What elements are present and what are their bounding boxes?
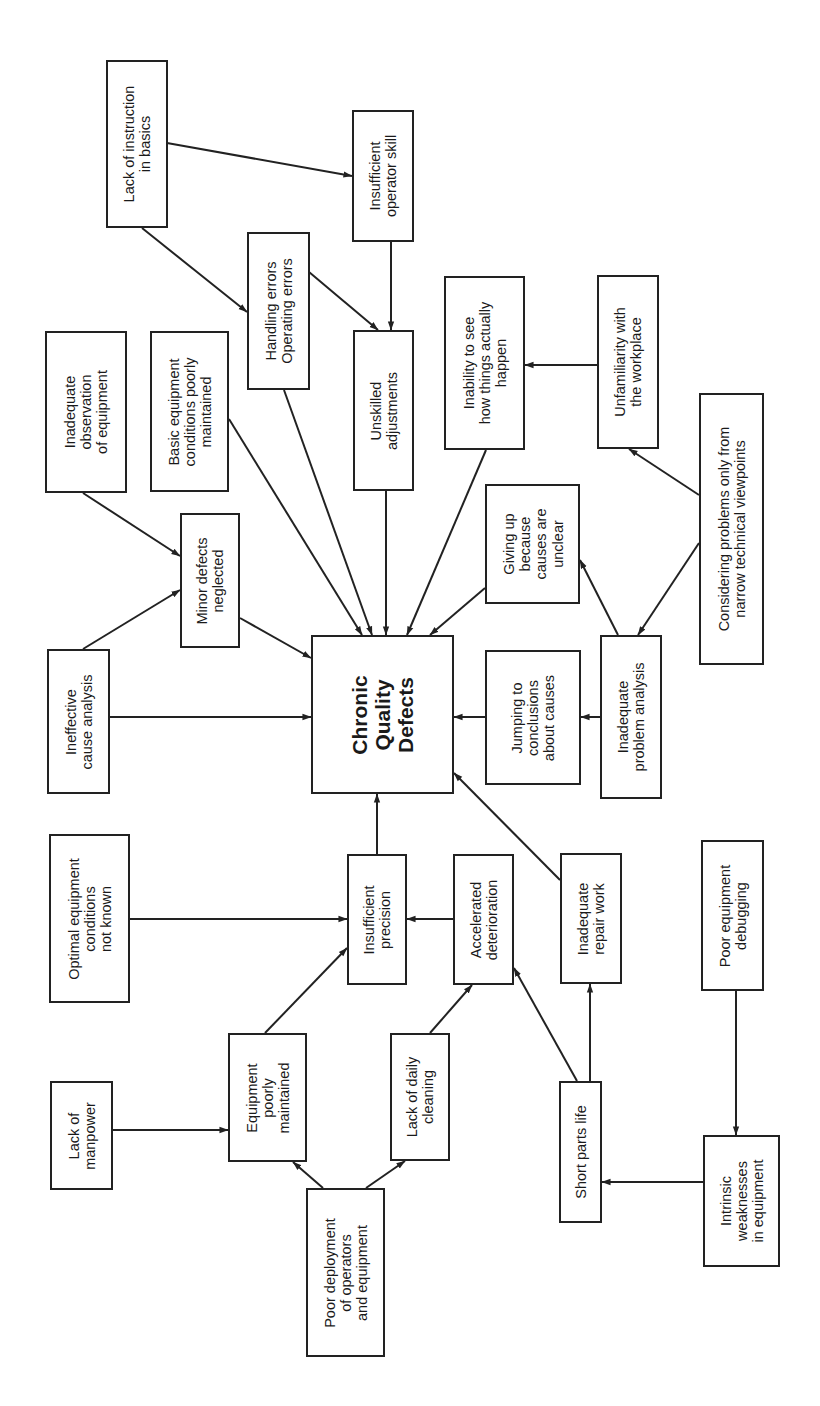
node-label: Basic equipment conditions poorly mainta… bbox=[165, 357, 214, 466]
node-insuff-precision: Insufficient precision bbox=[347, 854, 407, 985]
node-label: Unfamiliarity with the workplace bbox=[612, 307, 644, 417]
node-considering: Considering problems only from narrow te… bbox=[699, 393, 764, 665]
node-giving-up: Giving up because causes are unclear bbox=[485, 484, 580, 604]
central-effect-box: Chronic Quality Defects bbox=[311, 635, 454, 794]
node-poor-deployment: Poor deployment of operators and equipme… bbox=[306, 1188, 385, 1357]
node-label: Short parts life bbox=[572, 1105, 588, 1199]
node-inadequate-problem: Inadequate problem analysis bbox=[600, 635, 662, 799]
node-label: Optimal equipment conditions not known bbox=[65, 858, 114, 980]
node-handling: Handling errors Operating errors bbox=[247, 232, 310, 390]
node-label: Accelerated deterioration bbox=[467, 879, 499, 960]
node-label: Unskilled adjustments bbox=[367, 371, 399, 449]
node-label: Poor deployment of operators and equipme… bbox=[321, 1218, 370, 1328]
node-lack-manpower: Lack of manpower bbox=[50, 1081, 113, 1190]
node-label: Jumping to conclusions about causes bbox=[509, 674, 558, 760]
node-lack-instruction: Lack of instruction in basics bbox=[106, 60, 168, 228]
node-label: Equipment poorly maintained bbox=[243, 1062, 292, 1133]
arrow-considering-to-unfamiliarity bbox=[629, 449, 699, 495]
arrow-handling-to-unskilled bbox=[309, 272, 378, 330]
cause-effect-diagram: Chronic Quality Defects Lack of instruct… bbox=[0, 0, 820, 1406]
arrow-poor-deployment-to-equip-poorly bbox=[293, 1162, 323, 1188]
node-equip-poorly: Equipment poorly maintained bbox=[228, 1033, 307, 1162]
node-label: Inadequate observation of equipment bbox=[62, 370, 111, 454]
arrow-lack-cleaning-to-accelerated bbox=[430, 985, 472, 1033]
node-label: Insufficient operator skill bbox=[367, 135, 399, 217]
arrow-considering-to-inadequate-problem bbox=[638, 543, 699, 635]
arrow-equip-poorly-to-insuff-precision bbox=[265, 948, 347, 1033]
node-basic-equip: Basic equipment conditions poorly mainta… bbox=[150, 331, 229, 492]
node-label: Ineffective cause analysis bbox=[62, 674, 94, 769]
node-optimal: Optimal equipment conditions not known bbox=[49, 834, 130, 1003]
node-insuff-skill: Insufficient operator skill bbox=[352, 110, 414, 242]
node-label: Giving up because causes are unclear bbox=[500, 509, 565, 580]
arrow-basic-equip-to-chronic bbox=[229, 419, 362, 635]
node-minor-defects: Minor defects neglected bbox=[180, 513, 240, 648]
node-ineffective: Ineffective cause analysis bbox=[47, 649, 110, 794]
arrow-ineffective-to-minor-defects bbox=[83, 590, 180, 649]
node-intrinsic: Intrinsic weaknesses in equipment bbox=[703, 1135, 780, 1267]
node-label: Handling errors Operating errors bbox=[262, 258, 294, 364]
node-label: Lack of instruction in basics bbox=[121, 86, 153, 203]
node-label: Intrinsic weaknesses in equipment bbox=[717, 1159, 766, 1242]
node-lack-cleaning: Lack of daily cleaning bbox=[390, 1033, 450, 1161]
node-unfamiliarity: Unfamiliarity with the workplace bbox=[597, 275, 659, 449]
node-inadequate-obs: Inadequate observation of equipment bbox=[45, 331, 127, 493]
arrow-inability-to-chronic bbox=[407, 450, 486, 635]
node-label: Considering problems only from narrow te… bbox=[715, 427, 747, 632]
arrow-lack-instruction-to-insuff-skill bbox=[167, 143, 352, 176]
node-accelerated: Accelerated deterioration bbox=[453, 854, 514, 985]
node-label: Inadequate problem analysis bbox=[615, 663, 647, 772]
node-unskilled: Unskilled adjustments bbox=[353, 330, 414, 491]
arrow-inadequate-problem-to-giving-up bbox=[580, 560, 618, 635]
arrow-inadequate-obs-to-minor-defects bbox=[83, 493, 180, 556]
node-poor-debugging: Poor equipment debugging bbox=[701, 840, 764, 991]
arrow-poor-deployment-to-lack-cleaning bbox=[366, 1161, 405, 1188]
arrow-minor-defects-to-chronic bbox=[240, 618, 311, 658]
node-label: Inadequate repair work bbox=[575, 882, 607, 955]
node-short-parts: Short parts life bbox=[559, 1081, 602, 1223]
node-label: Chronic Quality Defects bbox=[348, 675, 417, 754]
node-jumping: Jumping to conclusions about causes bbox=[485, 650, 581, 785]
node-label: Poor equipment debugging bbox=[716, 864, 748, 966]
arrow-giving-up-to-chronic bbox=[430, 588, 485, 635]
node-label: Lack of daily cleaning bbox=[404, 1057, 436, 1138]
node-inadequate-repair: Inadequate repair work bbox=[560, 853, 622, 984]
node-inability: Inability to see how things actually hap… bbox=[444, 276, 525, 450]
node-label: Minor defects neglected bbox=[194, 537, 226, 624]
arrow-short-parts-to-accelerated bbox=[514, 968, 577, 1081]
node-label: Lack of manpower bbox=[65, 1102, 97, 1170]
node-label: Inability to see how things actually hap… bbox=[460, 302, 509, 425]
node-label: Insufficient precision bbox=[361, 885, 393, 954]
arrow-lack-instruction-to-handling bbox=[142, 228, 247, 312]
